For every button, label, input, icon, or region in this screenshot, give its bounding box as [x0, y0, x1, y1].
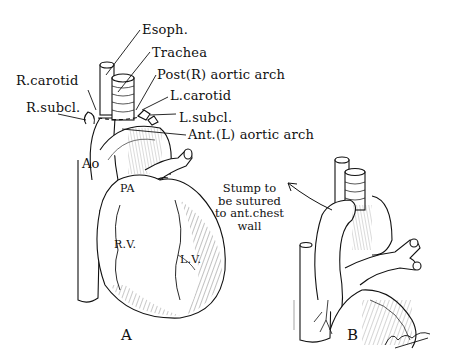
- label-left-ventricle: L.V.: [180, 254, 201, 266]
- label-right-carotid: R.carotid: [16, 74, 79, 88]
- panel-b-drawing: [288, 157, 430, 348]
- label-right-ventricle: R.V.: [114, 239, 136, 251]
- panel-label-b: B: [347, 326, 358, 344]
- stump-note-line-1: Stump to: [215, 182, 284, 195]
- label-pulmonary-artery: PA: [120, 183, 135, 195]
- stump-note: Stump to be sutured to ant.chest wall: [215, 182, 284, 232]
- label-trachea: Trachea: [152, 46, 207, 60]
- panel-label-a: A: [121, 326, 132, 344]
- label-post-right-aortic-arch: Post(R) aortic arch: [157, 68, 285, 82]
- anatomical-figure: Esoph. Trachea Post(R) aortic arch R.car…: [0, 0, 457, 359]
- label-ant-left-aortic-arch: Ant.(L) aortic arch: [188, 128, 314, 142]
- label-left-carotid: L.carotid: [170, 89, 231, 103]
- stump-note-line-3: to ant.chest: [215, 207, 284, 220]
- stump-note-line-4: wall: [215, 220, 284, 233]
- label-esophagus: Esoph.: [142, 23, 188, 37]
- label-aorta: Ao: [82, 157, 100, 171]
- heart-illustration: [0, 0, 457, 359]
- label-left-subclavian: L.subcl.: [179, 111, 232, 125]
- label-right-subclavian: R.subcl.: [26, 101, 80, 115]
